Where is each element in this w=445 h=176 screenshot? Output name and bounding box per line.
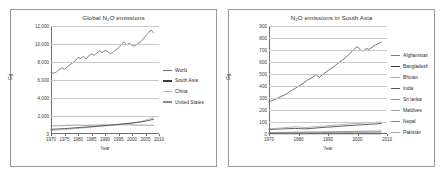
x-tick-mark [65,134,66,136]
gridline [51,116,159,117]
x-tick-label: 1990 [100,137,110,142]
chart-title-southasia-subscript: 2 [295,17,298,22]
series-line [269,122,381,129]
x-tick-label: 1980 [73,137,83,142]
gridline [269,38,387,39]
chart-title-southasia-rest: O emissions in South Asia [298,14,372,21]
y-tick-label: 600 [259,60,267,65]
legend-item[interactable]: India [391,83,437,94]
legend-southasia: AfghanistanBangladeshBhutanIndiaSri lank… [391,50,437,138]
gridline [269,62,387,63]
legend-item-label: United States [175,100,204,105]
gridline [269,50,387,51]
legend-item-label: Bhutan [403,75,418,80]
legend-swatch-icon [163,91,172,93]
x-tick-mark [299,134,300,136]
chart-panel-southasia: N2O emissions in South Asia Gg 010020030… [228,9,435,167]
chart-title-southasia: N2O emissions in South Asia [229,14,434,21]
gridline [51,80,159,81]
chart-panel-global: Global N2O emissions Gg 02,0004,0006,000… [10,9,217,167]
chart-title-global-subscript: 2 [107,17,110,22]
gridline [269,122,387,123]
legend-item[interactable]: South Asia [163,76,217,87]
legend-item-label: China [175,89,188,94]
legend-swatch-icon [163,101,172,103]
legend-swatch-icon [391,66,400,68]
x-tick-label: 1980 [293,137,303,142]
legend-swatch-icon [391,99,400,101]
gridline [51,62,159,63]
legend-swatch-icon [391,77,400,79]
legend-item[interactable]: United States [163,97,217,108]
legend-item-label: South Asia [175,78,198,83]
x-axis-label-global: Year [51,146,159,151]
x-tick-label: 1985 [86,137,96,142]
figure-canvas: Global N2O emissions Gg 02,0004,0006,000… [0,0,445,176]
y-tick-label: 500 [259,72,267,77]
x-tick-label: 2010 [154,137,164,142]
x-tick-mark [328,134,329,136]
gridline [269,74,387,75]
y-tick-label: 4,000 [38,96,50,101]
legend-item-label: India [403,86,413,91]
x-axis-ticks-global: 197019751980198519901995200020052010 [51,134,159,146]
legend-item-label: Maldives [403,108,422,113]
y-axis-line-southasia [269,26,270,134]
plot-area-global: 197019751980198519901995200020052010 [51,26,159,134]
series-line [269,42,381,102]
legend-item[interactable]: Maldives [391,105,437,116]
y-tick-label: 900 [259,24,267,29]
legend-item-label: Afghanistan [403,53,428,58]
chart-global: Global N2O emissions Gg 02,0004,0006,000… [11,10,216,166]
legend-item[interactable]: Nepal [391,116,437,127]
chart-title-global-rest: O emissions [110,14,145,21]
legend-item-label: Nepal [403,119,416,124]
x-tick-label: 1990 [323,137,333,142]
gridline [51,98,159,99]
legend-swatch-icon [391,88,400,90]
series-line [51,119,154,129]
legend-swatch-icon [163,80,172,82]
legend-global: WorldSouth AsiaChinaUnited States [163,65,217,107]
x-tick-mark [387,134,388,136]
x-tick-label: 1970 [46,137,56,142]
x-tick-mark [146,134,147,136]
legend-item-label: Pakistan [403,130,421,135]
y-tick-label: 100 [259,120,267,125]
series-line [269,124,381,130]
series-lines-southasia [269,26,387,134]
chart-southasia: N2O emissions in South Asia Gg 010020030… [229,10,434,166]
y-tick-label: 10,000 [35,42,49,47]
y-tick-label: 700 [259,48,267,53]
legend-item[interactable]: Afghanistan [391,50,437,61]
x-tick-label: 2000 [127,137,137,142]
x-tick-mark [78,134,79,136]
legend-item[interactable]: China [163,86,217,97]
y-tick-label: 12,000 [35,24,49,29]
legend-item[interactable]: Sri lanka [391,94,437,105]
legend-item[interactable]: Pakistan [391,127,437,138]
legend-item[interactable]: Bhutan [391,72,437,83]
x-tick-label: 1975 [59,137,69,142]
x-tick-mark [51,134,52,136]
legend-item[interactable]: World [163,65,217,76]
gridline [51,44,159,45]
x-tick-label: 2000 [352,137,362,142]
legend-item-label: World [175,68,187,73]
x-tick-mark [159,134,160,136]
series-line [51,30,154,73]
y-axis-ticks-southasia: 0100200300400500600700800900 [229,26,267,134]
x-tick-mark [92,134,93,136]
y-tick-label: 0 [264,132,267,137]
chart-title-global: Global N2O emissions [11,14,216,21]
gridline [269,26,387,27]
y-tick-label: 300 [259,96,267,101]
gridline [269,86,387,87]
x-tick-mark [119,134,120,136]
legend-item-label: Sri lanka [403,97,422,102]
x-tick-mark [269,134,270,136]
y-tick-label: 8,000 [38,60,50,65]
chart-title-global-main: Global N [82,14,107,21]
legend-swatch-icon [391,55,400,57]
legend-item[interactable]: Bangladesh [391,61,437,72]
